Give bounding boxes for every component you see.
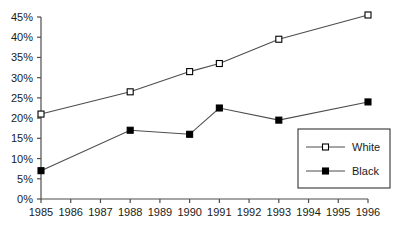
y-tick-label: 10%	[11, 153, 33, 165]
data-point-marker	[216, 105, 222, 111]
legend-label: Black	[352, 165, 379, 177]
data-point-marker	[187, 69, 193, 75]
data-point-marker	[187, 131, 193, 137]
y-tick-label: 15%	[11, 132, 33, 144]
x-tick-label: 1987	[88, 206, 112, 218]
y-tick-label: 0%	[17, 193, 33, 205]
y-tick-label: 35%	[11, 51, 33, 63]
x-tick-label: 1989	[148, 206, 172, 218]
x-tick-label: 1988	[118, 206, 142, 218]
x-tick-label: 1991	[207, 206, 231, 218]
x-tick-label: 1993	[267, 206, 291, 218]
line-chart: 0%5%10%15%20%25%30%35%40%45% 19851986198…	[0, 0, 394, 227]
legend-label: White	[352, 141, 380, 153]
data-point-marker	[127, 89, 133, 95]
legend-sample-marker	[323, 168, 329, 174]
data-point-marker	[216, 61, 222, 67]
y-tick-label: 40%	[11, 31, 33, 43]
chart-canvas: 0%5%10%15%20%25%30%35%40%45% 19851986198…	[0, 0, 394, 227]
data-point-marker	[365, 99, 371, 105]
data-point-marker	[276, 36, 282, 42]
x-tick-label: 1992	[237, 206, 261, 218]
x-tick-label: 1995	[326, 206, 350, 218]
y-tick-label: 25%	[11, 92, 33, 104]
x-tick-label: 1990	[177, 206, 201, 218]
x-tick-label: 1986	[58, 206, 82, 218]
y-tick-label: 30%	[11, 72, 33, 84]
data-point-marker	[127, 127, 133, 133]
legend-sample-marker	[323, 144, 329, 150]
legend-box	[298, 129, 390, 188]
data-point-marker	[365, 12, 371, 18]
y-tick-label: 45%	[11, 11, 33, 23]
data-point-marker	[38, 168, 44, 174]
data-point-marker	[276, 117, 282, 123]
data-point-marker	[38, 111, 44, 117]
y-tick-label: 20%	[11, 112, 33, 124]
x-tick-label: 1994	[296, 206, 320, 218]
chart-legend: WhiteBlack	[298, 129, 390, 188]
y-tick-label: 5%	[17, 173, 33, 185]
plot-background	[0, 0, 394, 227]
x-tick-label: 1985	[29, 206, 53, 218]
x-tick-label: 1996	[356, 206, 380, 218]
